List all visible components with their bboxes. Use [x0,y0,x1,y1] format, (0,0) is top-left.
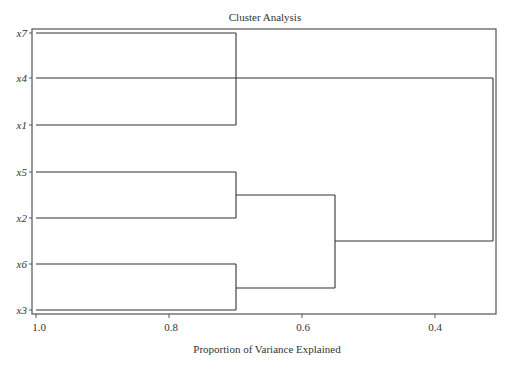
y-axis: x7 x4 x1 x5 x2 x6 x3 [16,27,32,316]
x-tick-label: 0.8 [164,321,178,333]
x-tick-label: 1.0 [32,321,46,333]
x-tick-label: 0.4 [428,321,442,333]
leaf-label: x6 [16,258,28,270]
x-axis-title: Proportion of Variance Explained [193,343,341,355]
leaf-label: x5 [16,166,28,178]
leaf-label: x1 [16,119,27,131]
dendrogram-branches [36,33,493,310]
chart-title: Cluster Analysis [229,11,301,23]
x-tick-label: 0.6 [296,321,310,333]
dendrogram-chart: Cluster Analysis x7 x4 x1 x5 x2 x6 x3 1.… [0,0,508,369]
leaf-label: x4 [16,72,28,84]
leaf-label: x7 [16,27,28,39]
leaf-label: x3 [16,304,28,316]
leaf-label: x2 [16,212,28,224]
x-axis: 1.0 0.8 0.6 0.4 [32,314,442,333]
